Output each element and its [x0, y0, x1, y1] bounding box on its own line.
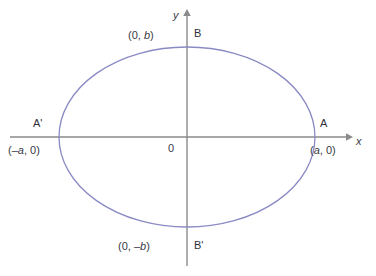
coord-label-bottom: (0, –b)	[118, 241, 150, 252]
vertex-label-a: A	[320, 118, 327, 129]
origin-label: 0	[168, 143, 174, 154]
vertex-label-b: B	[194, 28, 201, 39]
coord-label-right: (a, 0)	[310, 145, 336, 156]
y-axis-label: y	[173, 10, 179, 21]
x-axis-arrowhead-icon	[346, 133, 353, 141]
y-axis-arrowhead-icon	[183, 9, 191, 16]
vertex-label-a-prime: A'	[33, 118, 42, 129]
vertex-label-b-prime: B'	[194, 240, 203, 251]
ellipse-diagram-canvas	[0, 0, 376, 276]
coord-label-left: (–a, 0)	[8, 145, 40, 156]
coord-label-top: (0, b)	[128, 30, 154, 41]
x-axis-label: x	[356, 136, 362, 147]
ellipse-figure: y x 0 B B' A A' (0, b) (0, –b) (a, 0) (–…	[0, 0, 376, 276]
